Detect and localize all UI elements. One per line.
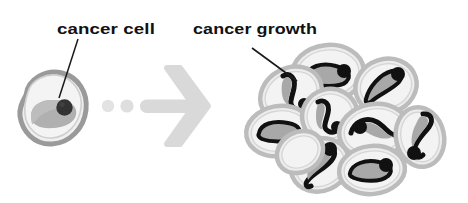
arrow-shaft	[140, 100, 192, 114]
label-cancer-cell: cancer cell	[57, 20, 155, 37]
label-cancer-growth: cancer growth	[193, 20, 317, 37]
illustration-root: cancer cell cancer growth	[0, 0, 468, 203]
cell-nucleus	[56, 99, 72, 115]
cell-nucleus-highlight	[59, 102, 64, 107]
cancer-growth-diagram: cancer cell cancer growth	[0, 0, 468, 203]
single-cancer-cell	[20, 72, 86, 144]
arrow-dot-1	[102, 100, 114, 112]
arrow-dot-2	[120, 99, 133, 112]
